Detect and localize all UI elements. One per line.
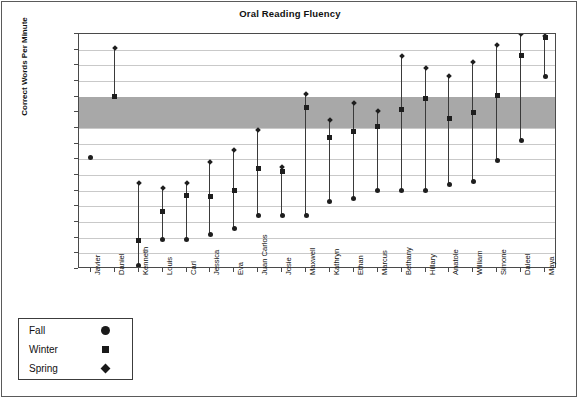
data-point-circle-marker[interactable] — [327, 199, 332, 204]
gridline — [79, 65, 555, 66]
data-point-diamond-marker[interactable] — [136, 180, 142, 186]
data-point-circle-marker[interactable] — [160, 237, 165, 242]
x-tick-mark — [233, 268, 234, 272]
x-axis-label-daniel: Daniel — [117, 253, 126, 275]
data-point-square-marker[interactable] — [160, 209, 165, 214]
data-point-circle-marker[interactable] — [304, 213, 309, 218]
student-connector-line — [186, 195, 187, 239]
data-point-circle-marker[interactable] — [375, 188, 380, 193]
data-point-circle-marker[interactable] — [351, 196, 356, 201]
x-tick-mark — [448, 268, 449, 272]
data-point-diamond-marker[interactable] — [494, 42, 500, 48]
data-point-diamond-marker[interactable] — [447, 73, 453, 79]
x-tick-mark — [114, 268, 115, 272]
x-tick-mark — [257, 268, 258, 272]
x-tick-mark — [472, 268, 473, 272]
data-point-square-marker[interactable] — [208, 194, 213, 199]
legend-item-fall[interactable]: Fall — [19, 322, 132, 341]
x-tick-mark — [496, 268, 497, 272]
x-axis-label-kenneth: Kenneth — [141, 247, 150, 275]
x-tick-mark — [186, 268, 187, 272]
student-connector-line — [257, 130, 258, 169]
x-axis-label-eva: Eva — [236, 262, 245, 275]
data-point-diamond-marker[interactable] — [423, 66, 429, 72]
x-axis-label-maxwell: Maxwell — [308, 248, 317, 275]
x-axis-label-javier: Javier — [93, 255, 102, 275]
data-point-square-marker[interactable] — [304, 105, 309, 110]
data-point-diamond-marker[interactable] — [232, 147, 238, 153]
x-axis-label-josie: Josie — [284, 257, 293, 275]
legend-item-winter[interactable]: Winter — [19, 341, 132, 360]
data-point-circle-marker[interactable] — [208, 232, 213, 237]
student-connector-line — [401, 109, 402, 190]
data-point-circle-marker[interactable] — [423, 188, 428, 193]
y-tick-mark — [74, 158, 78, 159]
y-tick-mark — [74, 174, 78, 175]
square-marker-icon-shape — [102, 346, 109, 353]
square-marker-icon — [101, 345, 109, 353]
data-point-circle-marker[interactable] — [399, 188, 404, 193]
data-point-circle-marker[interactable] — [519, 138, 524, 143]
data-point-circle-marker[interactable] — [184, 237, 189, 242]
x-tick-mark — [138, 268, 139, 272]
data-point-square-marker[interactable] — [423, 96, 428, 101]
x-tick-mark — [162, 268, 163, 272]
gridline — [79, 222, 555, 223]
data-point-square-marker[interactable] — [136, 238, 141, 243]
legend-item-spring[interactable]: Spring — [19, 360, 132, 379]
data-point-diamond-marker[interactable] — [471, 59, 477, 65]
x-axis-label-daleel: Daleel — [523, 253, 532, 275]
x-axis-label-ethan: Ethan — [356, 255, 365, 275]
data-point-diamond-marker[interactable] — [184, 180, 190, 186]
data-point-diamond-marker[interactable] — [303, 91, 309, 97]
x-axis-label-maya: Maya — [547, 256, 556, 275]
x-axis-label-louis: Louis — [165, 257, 174, 275]
data-point-square-marker[interactable] — [280, 169, 285, 174]
data-point-diamond-marker[interactable] — [399, 53, 405, 59]
student-connector-line — [520, 56, 521, 141]
data-point-square-marker[interactable] — [471, 110, 476, 115]
data-point-square-marker[interactable] — [495, 93, 500, 98]
data-point-circle-marker[interactable] — [543, 74, 548, 79]
data-point-square-marker[interactable] — [519, 53, 524, 58]
student-connector-line — [305, 108, 306, 216]
y-tick-mark — [74, 33, 78, 34]
x-axis-label-bethany: Bethany — [404, 247, 413, 275]
y-tick-mark — [74, 143, 78, 144]
data-point-square-marker[interactable] — [399, 107, 404, 112]
y-tick-mark — [74, 205, 78, 206]
gridline — [79, 144, 555, 145]
student-connector-line — [401, 56, 402, 109]
x-tick-mark — [90, 268, 91, 272]
data-point-circle-marker[interactable] — [280, 213, 285, 218]
data-point-square-marker[interactable] — [351, 129, 356, 134]
x-tick-mark — [520, 268, 521, 272]
x-axis-label-william: William — [475, 251, 484, 275]
data-point-square-marker[interactable] — [232, 188, 237, 193]
gridline — [79, 50, 555, 51]
data-point-circle-marker[interactable] — [256, 213, 261, 218]
data-point-square-marker[interactable] — [112, 94, 117, 99]
data-point-square-marker[interactable] — [375, 124, 380, 129]
gridline — [79, 191, 555, 192]
data-point-circle-marker[interactable] — [471, 179, 476, 184]
data-point-circle-marker[interactable] — [232, 226, 237, 231]
x-tick-mark — [353, 268, 354, 272]
data-point-circle-marker[interactable] — [495, 158, 500, 163]
diamond-marker-icon-shape — [101, 364, 111, 374]
x-tick-mark — [209, 268, 210, 272]
x-axis-label-kathryn: Kathryn — [332, 249, 341, 275]
data-point-diamond-marker[interactable] — [160, 185, 166, 191]
student-connector-line — [138, 183, 139, 241]
student-connector-line — [114, 48, 115, 97]
data-point-square-marker[interactable] — [327, 135, 332, 140]
y-tick-mark — [74, 190, 78, 191]
data-point-circle-marker[interactable] — [447, 182, 452, 187]
data-point-square-marker[interactable] — [447, 116, 452, 121]
student-connector-line — [329, 137, 330, 201]
gridline — [79, 81, 555, 82]
data-point-square-marker[interactable] — [184, 193, 189, 198]
y-tick-mark — [74, 64, 78, 65]
x-tick-mark — [544, 268, 545, 272]
data-point-square-marker[interactable] — [256, 166, 261, 171]
